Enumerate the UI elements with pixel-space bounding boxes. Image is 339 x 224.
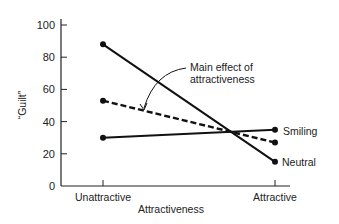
data-point bbox=[100, 41, 106, 47]
series-lines bbox=[100, 41, 278, 165]
label-smiling: Smiling bbox=[283, 125, 318, 137]
y-tick-label: 0 bbox=[49, 180, 55, 192]
x-tick-label: Attractive bbox=[253, 191, 297, 203]
y-tick-label: 100 bbox=[37, 19, 55, 31]
series-line-smiling bbox=[103, 130, 275, 138]
axes: 020406080100UnattractiveAttractiveAttrac… bbox=[16, 19, 297, 215]
annotation-line2: attractiveness bbox=[190, 73, 255, 85]
y-tick-label: 20 bbox=[43, 148, 55, 160]
x-tick-label: Unattractive bbox=[75, 191, 131, 203]
label-neutral: Neutral bbox=[282, 156, 316, 168]
data-point bbox=[100, 98, 106, 104]
data-point bbox=[272, 140, 278, 146]
data-point bbox=[272, 159, 278, 165]
annotation-line1: Main effect of bbox=[190, 61, 253, 73]
y-tick-label: 60 bbox=[43, 83, 55, 95]
x-axis-label: Attractiveness bbox=[138, 203, 204, 215]
data-point bbox=[100, 135, 106, 141]
y-tick-label: 80 bbox=[43, 51, 55, 63]
chart: 020406080100UnattractiveAttractiveAttrac… bbox=[0, 0, 339, 224]
y-axis-label: “Guilt” bbox=[16, 90, 28, 119]
labels: Main effect ofattractivenessSmilingNeutr… bbox=[140, 61, 318, 168]
y-tick-label: 40 bbox=[43, 116, 55, 128]
data-point bbox=[272, 127, 278, 133]
annotation-arrow bbox=[144, 68, 186, 108]
